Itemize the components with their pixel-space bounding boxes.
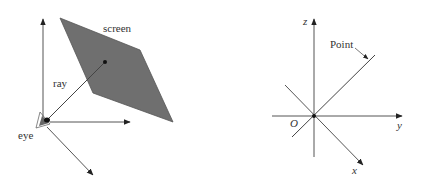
point-pointer-arrow xyxy=(355,48,368,59)
origin-label: O xyxy=(290,117,298,129)
ray-label: ray xyxy=(53,77,68,89)
eye-label: eye xyxy=(18,129,33,141)
z-axis-label: z xyxy=(302,15,308,27)
y-axis-label: y xyxy=(396,119,402,131)
origin-point xyxy=(312,114,316,118)
eye-screen-ray-diagram: screen ray eye xyxy=(18,18,173,175)
diagonal-axis xyxy=(47,127,93,175)
diagram-canvas: screen ray eye z y x O Point xyxy=(0,0,422,189)
screen-label: screen xyxy=(103,22,132,34)
x-axis-label: x xyxy=(351,164,357,176)
coordinate-axes-diagram: z y x O Point xyxy=(272,15,402,176)
screen-point xyxy=(103,60,107,64)
point-label: Point xyxy=(330,38,353,50)
point-line xyxy=(292,55,375,137)
